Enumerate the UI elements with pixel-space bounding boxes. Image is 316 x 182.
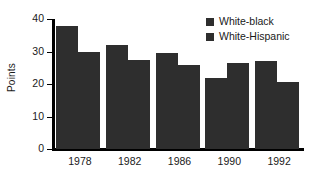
legend-item: White-black: [206, 15, 290, 28]
legend-label: White-Hispanic: [219, 31, 290, 42]
bar: [56, 26, 78, 150]
x-tick-label: 1986: [156, 155, 204, 167]
bar: [128, 60, 150, 149]
bar-group: [56, 19, 106, 149]
y-tick-label: 40: [22, 13, 44, 24]
x-tick-label: 1992: [255, 155, 303, 167]
x-tick-label: 1978: [56, 155, 104, 167]
bar-group: [106, 19, 156, 149]
bar: [178, 65, 200, 149]
y-axis-tick-labels: 010203040: [22, 0, 44, 182]
bar: [227, 63, 249, 149]
y-tick-mark: [47, 52, 52, 53]
bar-group: [156, 19, 206, 149]
bar: [156, 53, 178, 149]
bar: [106, 45, 128, 149]
chart-legend: White-blackWhite-Hispanic: [206, 15, 290, 45]
legend-item: White-Hispanic: [206, 30, 290, 43]
legend-swatch-icon: [206, 33, 214, 41]
y-tick-label: 0: [22, 143, 44, 154]
y-tick-mark: [47, 84, 52, 85]
y-tick-label: 10: [22, 111, 44, 122]
y-tick-mark: [47, 117, 52, 118]
x-axis-tick-labels: 19781982198619901992: [55, 155, 304, 171]
bar-chart: Points 010203040 19781982198619901992 Wh…: [0, 0, 316, 182]
x-tick-label: 1990: [205, 155, 253, 167]
bar: [277, 82, 299, 149]
x-tick-label: 1982: [106, 155, 154, 167]
legend-swatch-icon: [206, 18, 214, 26]
bar: [255, 61, 277, 149]
legend-label: White-black: [219, 16, 274, 27]
y-tick-label: 20: [22, 78, 44, 89]
y-tick-label: 30: [22, 46, 44, 57]
y-tick-mark: [47, 149, 52, 150]
y-tick-mark: [47, 19, 52, 20]
y-axis-title: Points: [6, 48, 17, 108]
bar: [78, 52, 100, 150]
bar: [205, 78, 227, 150]
